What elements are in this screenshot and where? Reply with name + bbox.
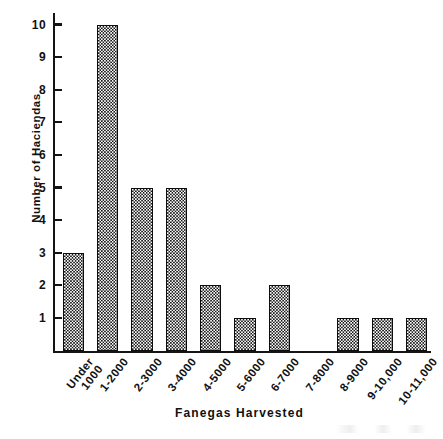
y-tick-label: 8 (39, 83, 46, 97)
y-tick-label: 6 (39, 148, 46, 162)
y-tick-label: 4 (39, 213, 46, 227)
x-tick-label-8-9000: 8-9000 (338, 356, 371, 394)
x-tick-label-3-4000: 3-4000 (166, 356, 199, 394)
bar-4-5000 (200, 285, 221, 350)
x-tick-label-under-1000: Under1000 (65, 356, 105, 398)
bar-2-3000 (131, 188, 152, 351)
x-tick-label-1-2000: 1-2000 (98, 356, 131, 394)
bar-5-6000 (234, 318, 255, 351)
y-tick-label: 5 (39, 181, 46, 195)
bar-chart-figure: Number of Haciendas 12345678910 Under100… (0, 0, 443, 439)
bar-3-4000 (166, 188, 187, 351)
plot-area: 12345678910 (53, 13, 431, 353)
bar-under-1000 (63, 253, 84, 351)
bar-6-7000 (269, 285, 290, 350)
x-tick-label-5-6000: 5-6000 (235, 356, 268, 394)
scan-artifact (336, 425, 436, 433)
y-tick-label: 10 (32, 18, 46, 32)
bar-1-2000 (97, 25, 118, 351)
x-axis-title: Fanegas Harvested (0, 406, 443, 420)
bar-9-10-000 (372, 318, 393, 351)
y-tick-label: 2 (39, 278, 46, 292)
bar-8-9000 (337, 318, 358, 351)
x-tick-label-7-8000: 7-8000 (304, 356, 337, 394)
x-tick-label-4-5000: 4-5000 (201, 356, 234, 394)
x-tick-label-6-7000: 6-7000 (269, 356, 302, 394)
bar-10-11-000 (406, 318, 427, 351)
y-tick-label: 1 (39, 311, 46, 325)
y-tick-label: 9 (39, 50, 46, 64)
y-tick-label: 7 (39, 115, 46, 129)
y-tick-label: 3 (39, 246, 46, 260)
bars-layer (53, 13, 431, 352)
x-tick-label-2-3000: 2-3000 (132, 356, 165, 394)
